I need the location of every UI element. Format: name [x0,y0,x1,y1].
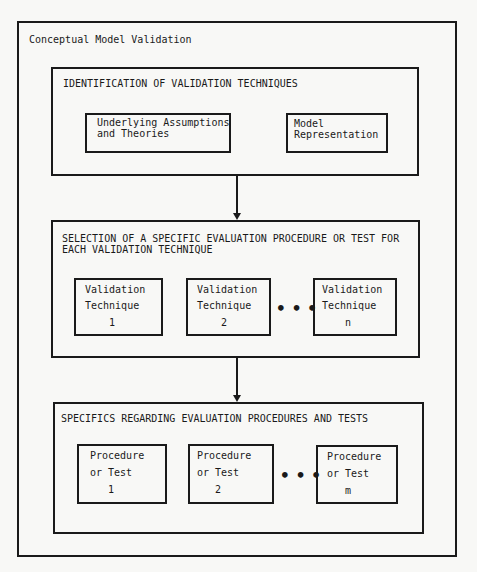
outer-title: Conceptual Model Validation [29,34,192,45]
stage3-title: SPECIFICS REGARDING EVALUATION PROCEDURE… [61,413,368,424]
item-line2: or Test [197,465,239,481]
validation-technique-2: Validation Technique 2 [186,278,271,336]
item-line1: Procedure [197,448,251,464]
validation-technique-1: Validation Technique 1 [74,278,163,336]
item-line1: Underlying Assumptions [97,117,229,128]
item-line2: or Test [327,466,369,482]
procedure-test-m: Procedure or Test m [316,445,398,504]
item-index: n [345,315,351,331]
stage1-title: IDENTIFICATION OF VALIDATION TECHNIQUES [63,78,298,89]
item-line2: and Theories [97,128,169,139]
stage2-title-line2: EACH VALIDATION TECHNIQUE [62,244,213,255]
item-line2: Representation [294,129,378,140]
stage1-item-assumptions: Underlying Assumptions and Theories [85,113,231,153]
item-index: 2 [215,482,221,498]
item-line1: Procedure [327,449,381,465]
item-line1: Validation [85,282,145,298]
validation-technique-n: Validation Technique n [313,278,397,336]
procedure-test-1: Procedure or Test 1 [77,444,167,504]
arrow-down-icon [233,213,241,220]
item-index: 1 [109,315,115,331]
arrow-down-icon [233,395,241,402]
stage1-item-representation: Model Representation [286,113,388,153]
item-index: 1 [108,482,114,498]
item-line2: Technique [85,298,139,314]
item-line2: Technique [322,298,376,314]
stage2-title-line1: SELECTION OF A SPECIFIC EVALUATION PROCE… [62,233,399,244]
item-index: 2 [221,315,227,331]
item-line1: Validation [322,282,382,298]
item-index: m [345,483,351,499]
procedure-test-2: Procedure or Test 2 [188,444,274,504]
connector-line-1 [236,176,238,213]
connector-line-2 [236,358,238,395]
item-line1: Model [294,118,324,129]
item-line2: Technique [197,298,251,314]
item-line1: Validation [197,282,257,298]
item-line1: Procedure [90,448,144,464]
item-line2: or Test [90,465,132,481]
